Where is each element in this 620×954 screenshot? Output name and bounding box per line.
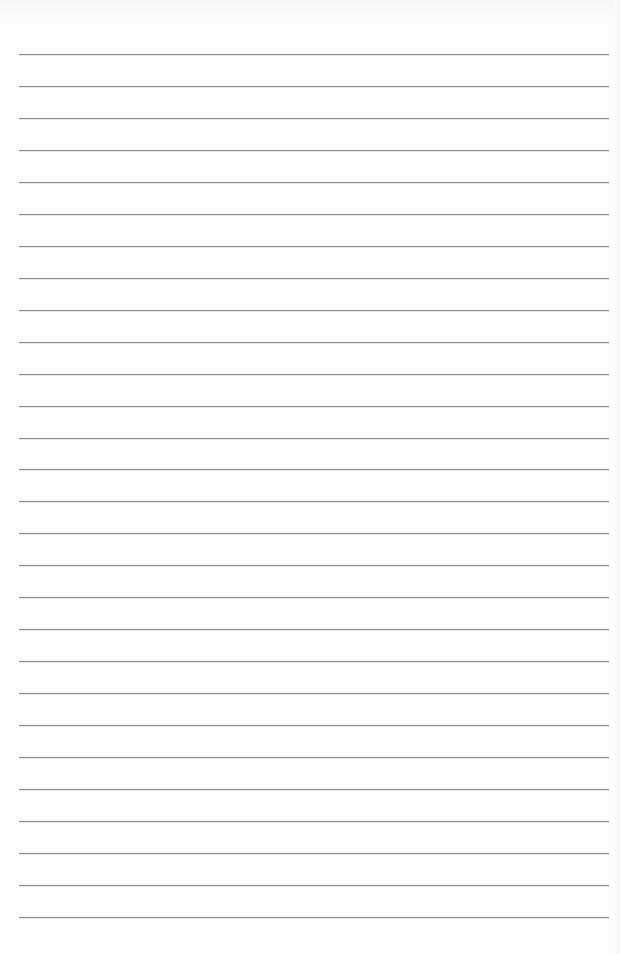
faint-header-bleed [0,0,620,18]
ruled-line [19,86,609,87]
ruled-line [19,565,609,566]
ruled-line [19,118,609,119]
ruled-line [19,54,609,55]
ruled-line [19,757,609,758]
ruled-line [19,725,609,726]
ruled-line [19,885,609,886]
ruled-line [19,246,609,247]
page-edge-shadow [614,0,620,954]
ruled-line [19,406,609,407]
ruled-line [19,629,609,630]
lined-paper-page [0,0,620,954]
ruled-line [19,821,609,822]
ruled-line [19,342,609,343]
ruled-line [19,597,609,598]
ruled-line [19,533,609,534]
ruled-line [19,917,609,918]
ruled-line [19,469,609,470]
ruled-line [19,214,609,215]
ruled-line [19,789,609,790]
ruled-line [19,278,609,279]
ruled-line [19,853,609,854]
ruled-line [19,374,609,375]
ruled-line [19,661,609,662]
ruled-line [19,501,609,502]
ruled-line [19,310,609,311]
ruled-line [19,438,609,439]
ruled-line [19,150,609,151]
ruled-line [19,693,609,694]
ruled-line [19,182,609,183]
